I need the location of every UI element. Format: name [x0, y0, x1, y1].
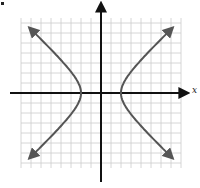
x-axis-label: x	[192, 85, 197, 95]
hyperbola-graph	[0, 0, 200, 188]
